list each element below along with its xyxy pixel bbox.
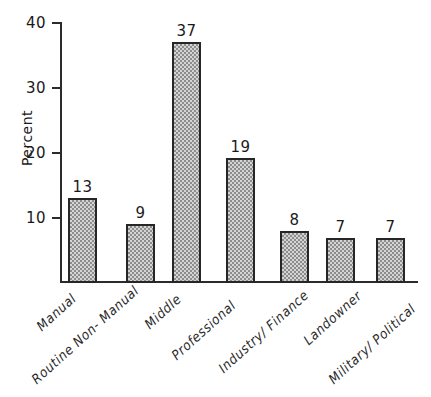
bar-value-middle: 37 <box>167 22 206 40</box>
bar-value-professional: 19 <box>221 138 260 156</box>
bar-routine-non-manual <box>126 224 155 283</box>
y-axis-title: Percent <box>19 100 35 176</box>
bar-value-manual: 13 <box>63 178 102 196</box>
y-tick-label-30: 30 <box>6 79 46 97</box>
y-tick-mark-20 <box>52 152 60 154</box>
bar-professional <box>226 158 255 283</box>
bar-value-industry-finance: 8 <box>275 211 314 229</box>
x-category-label-manual: Manual <box>33 290 79 334</box>
bar-middle <box>172 42 201 283</box>
y-tick-mark-10 <box>52 217 60 219</box>
bar-industry-finance <box>280 231 309 283</box>
x-category-label-middle: Middle <box>141 291 184 332</box>
y-tick-mark-40 <box>52 22 60 24</box>
bar-value-military-political: 7 <box>371 218 410 236</box>
bar-landowner <box>326 238 355 283</box>
x-category-label-routine-non-manual: Routine Non- Manual <box>28 282 142 387</box>
bar-value-landowner: 7 <box>321 218 360 236</box>
y-axis-line <box>60 22 62 283</box>
bar-military-political <box>376 238 405 283</box>
bar-chart: Percent 40 30 20 10 13 9 37 19 8 7 7 Man… <box>0 0 431 397</box>
y-tick-mark-30 <box>52 87 60 89</box>
bar-value-routine-non-manual: 9 <box>121 204 160 222</box>
y-tick-label-40: 40 <box>6 14 46 32</box>
y-tick-label-10: 10 <box>6 209 46 227</box>
bar-manual <box>68 198 97 283</box>
y-tick-label-20: 20 <box>6 144 46 162</box>
